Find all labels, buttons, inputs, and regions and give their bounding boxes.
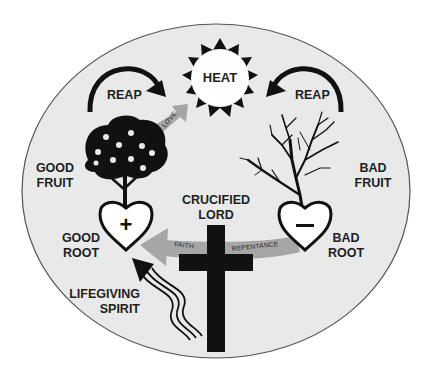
crucified-label: CRUCIFIED <box>182 193 250 207</box>
good-fruit-label-2: FRUIT <box>37 176 74 190</box>
spirit-label-2: SPIRIT <box>100 302 141 316</box>
good-root-label-1: GOOD <box>62 231 100 245</box>
bad-fruit-label-2: FRUIT <box>355 176 392 190</box>
reap-left-label: REAP <box>107 88 142 102</box>
lord-label: LORD <box>198 208 233 222</box>
reap-right-label: REAP <box>295 88 330 102</box>
good-root-label-2: ROOT <box>63 246 99 260</box>
spirit-label-1: LIFEGIVING <box>69 287 140 301</box>
bad-fruit-label-1: BAD <box>359 161 386 175</box>
bad-root-label-2: ROOT <box>328 246 364 260</box>
sun-label: HEAT <box>203 70 237 85</box>
bad-root-label-1: BAD <box>332 231 359 245</box>
diagram-canvas: HEAT REAP REAP LOVE <box>0 0 433 377</box>
good-heart-symbol: + <box>120 212 133 237</box>
good-fruit-label-1: GOOD <box>36 161 74 175</box>
